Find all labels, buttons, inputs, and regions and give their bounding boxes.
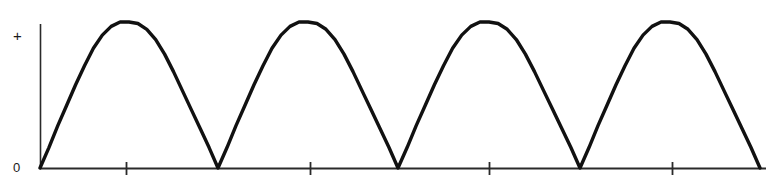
y-axis-zero-label: 0 [13, 160, 20, 175]
y-axis-plus-label: + [13, 27, 22, 44]
waveform-curve [40, 22, 760, 168]
waveform-plot: + 0 [0, 0, 773, 188]
waveform-figure: halfwave rectified sinusoid + 0 [0, 0, 773, 188]
